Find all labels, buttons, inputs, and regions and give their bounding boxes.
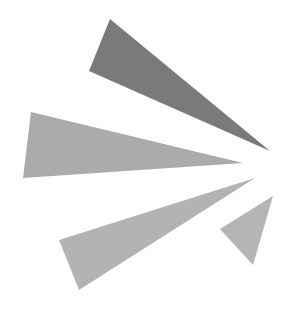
top-ray-shape xyxy=(89,19,270,151)
burst-logo xyxy=(0,0,289,316)
small-ray-shape xyxy=(220,196,273,265)
burst-graphic xyxy=(0,0,289,316)
